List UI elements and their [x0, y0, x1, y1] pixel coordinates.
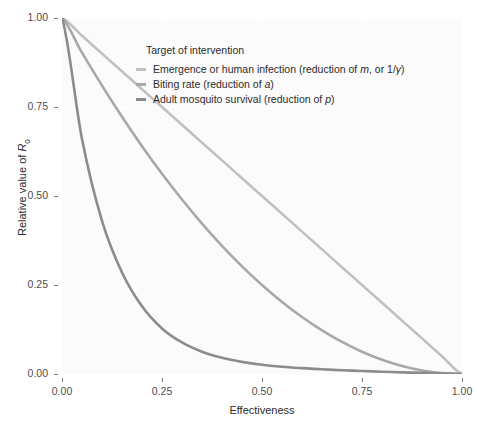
- y-axis-label-symbol: R: [16, 144, 28, 152]
- legend-label-endtext: ): [401, 63, 405, 75]
- legend-label-symbol: m: [360, 63, 369, 75]
- x-tick-label: 0.75: [339, 386, 385, 397]
- y-tick-mark: [54, 107, 58, 108]
- legend-item[interactable]: Emergence or human infection (reduction …: [136, 62, 426, 76]
- legend-key-swatch: [136, 98, 146, 101]
- y-tick-mark: [54, 374, 58, 375]
- y-axis-label-text: Relative value of: [16, 152, 28, 236]
- y-tick-label: 0.25: [8, 279, 48, 290]
- legend-item-label: Biting rate (reduction of a): [153, 78, 274, 90]
- x-tick-mark: [62, 378, 63, 382]
- legend-key-swatch: [136, 68, 146, 71]
- legend-key-swatch: [136, 83, 146, 86]
- y-axis-label: Relative value of R0: [16, 98, 31, 278]
- legend-label-endtext: ): [331, 93, 335, 105]
- legend-label-endtext: ): [270, 78, 274, 90]
- x-tick-mark: [162, 378, 163, 382]
- x-tick-mark: [362, 378, 363, 382]
- legend-item-label: Emergence or human infection (reduction …: [153, 63, 405, 75]
- y-tick-label: 1.00: [8, 12, 48, 23]
- legend-items: Emergence or human infection (reduction …: [136, 62, 426, 106]
- x-tick-label: 1.00: [439, 386, 477, 397]
- y-tick-mark: [54, 285, 58, 286]
- legend-item-label: Adult mosquito survival (reduction of p): [153, 93, 335, 105]
- y-tick-label: 0.00: [8, 368, 48, 379]
- legend-label-text: Adult mosquito survival (reduction of: [153, 93, 325, 105]
- y-tick-mark: [54, 18, 58, 19]
- legend-label-text: Biting rate (reduction of: [153, 78, 264, 90]
- legend-item[interactable]: Biting rate (reduction of a): [136, 77, 426, 91]
- y-axis-label-subscript: 0: [23, 139, 32, 143]
- x-tick-label: 0.50: [239, 386, 285, 397]
- y-tick-mark: [54, 196, 58, 197]
- x-tick-mark: [262, 378, 263, 382]
- legend-label-midtext: , or 1/: [369, 63, 396, 75]
- x-tick-label: 0.25: [139, 386, 185, 397]
- x-tick-mark: [462, 378, 463, 382]
- x-axis-label: Effectiveness: [62, 404, 462, 416]
- chart-legend: Target of intervention Emergence or huma…: [136, 44, 426, 107]
- legend-title: Target of intervention: [146, 44, 426, 56]
- legend-item[interactable]: Adult mosquito survival (reduction of p): [136, 92, 426, 106]
- legend-label-text: Emergence or human infection (reduction …: [153, 63, 360, 75]
- x-tick-label: 0.00: [39, 386, 85, 397]
